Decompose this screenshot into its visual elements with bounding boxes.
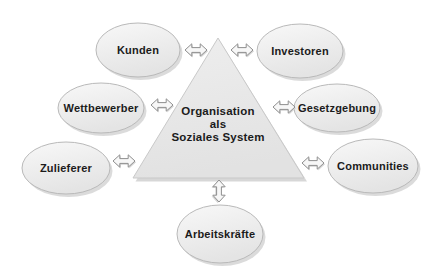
center-label-line2: als (210, 118, 227, 130)
double-arrow-icon-kunden (185, 44, 208, 58)
node-label: Zulieferer (40, 162, 93, 174)
node-label: Investoren (271, 45, 329, 57)
double-arrow-icon-arbeitskraefte (212, 180, 226, 203)
diagram-svg: Organisation als Soziales System Kunden … (0, 0, 435, 273)
stakeholder-diagram: Organisation als Soziales System Kunden … (0, 0, 435, 273)
stakeholder-node-zulieferer: Zulieferer (22, 142, 113, 197)
double-arrow-icon-gesetzgebung (273, 101, 296, 115)
node-label: Gesetzgebung (298, 102, 376, 114)
node-label: Wettbewerber (64, 102, 139, 114)
stakeholder-node-arbeitskraefte: Arbeitskräfte (177, 205, 266, 266)
double-arrow-icon-investoren (231, 44, 254, 58)
node-label: Communities (337, 160, 409, 172)
stakeholder-node-investoren: Investoren (257, 24, 346, 81)
stakeholder-node-wettbewerber: Wettbewerber (58, 83, 147, 136)
center-label-line3: Soziales System (171, 131, 264, 143)
node-label: Kunden (117, 44, 159, 56)
double-arrow-icon-wettbewerber (151, 99, 174, 113)
node-label: Arbeitskräfte (185, 228, 255, 240)
stakeholder-node-kunden: Kunden (96, 23, 183, 80)
double-arrow-icon-communities (302, 157, 325, 171)
stakeholder-node-gesetzgebung: Gesetzgebung (294, 84, 383, 135)
stakeholder-node-communities: Communities (328, 139, 421, 196)
center-label-line1: Organisation (181, 105, 254, 117)
double-arrow-icon-zulieferer (113, 155, 136, 169)
